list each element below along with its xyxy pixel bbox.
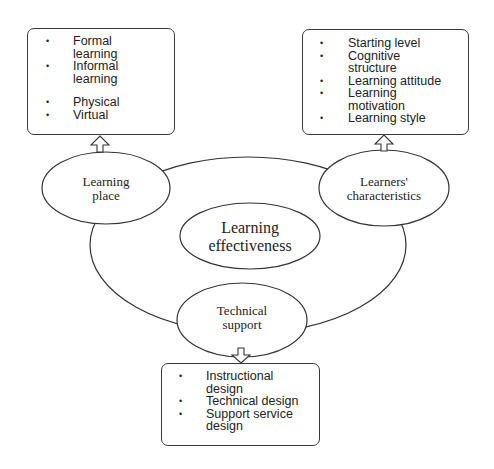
list-item: • Learning style	[303, 112, 468, 125]
arrow-up-icon	[375, 135, 393, 151]
arrow-up-icon	[91, 136, 109, 152]
learning-place-items-box: • Formal learning • Informal learning • …	[27, 28, 175, 135]
learners-characteristics-items: • Starting level • Cognitive structure •…	[303, 37, 468, 125]
list-item: • Technical design	[162, 395, 319, 408]
list-item: • Learning motivation	[303, 87, 468, 112]
list-item: • Cognitive structure	[303, 50, 468, 75]
technical-support-items-box: • Instructional design • Technical desig…	[161, 363, 320, 446]
list-item: • Formal learning	[28, 35, 174, 60]
list-item: • Informal learning	[28, 60, 174, 96]
technical-support-label: Technical support	[192, 304, 292, 332]
list-item: • Virtual	[28, 109, 174, 122]
list-item: • Support service design	[162, 408, 319, 433]
learners-characteristics-label: Learners' characteristics	[324, 175, 444, 203]
list-item: • Instructional design	[162, 370, 319, 395]
learning-place-label: Learning place	[56, 175, 156, 203]
learners-characteristics-items-box: • Starting level • Cognitive structure •…	[302, 29, 469, 135]
technical-support-items: • Instructional design • Technical desig…	[162, 370, 319, 433]
list-item: • Starting level	[303, 37, 468, 50]
list-item: • Physical	[28, 96, 174, 109]
learning-place-items: • Formal learning • Informal learning • …	[28, 35, 174, 121]
learning-effectiveness-label: Learning effectiveness	[190, 219, 310, 255]
